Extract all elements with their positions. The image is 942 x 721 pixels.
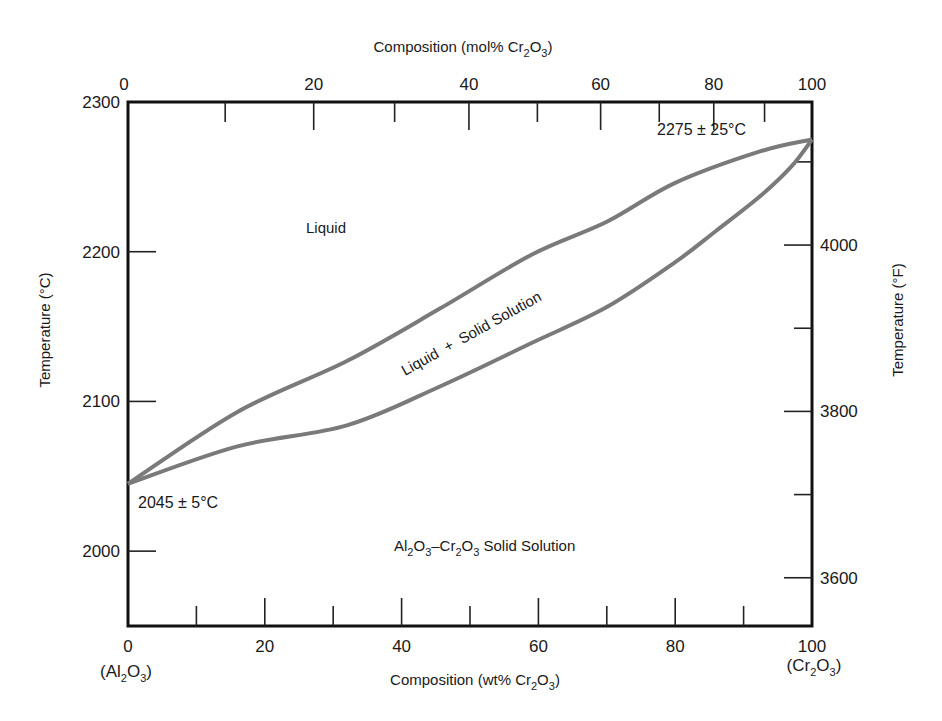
x2-axis-title: Composition (mol% Cr2O3) xyxy=(374,38,553,59)
x2-tick-label: 0 xyxy=(119,75,128,94)
y2-tick-label: 4000 xyxy=(820,236,858,255)
x2-tick-label: 60 xyxy=(591,75,610,94)
liquidus-curve xyxy=(128,139,812,483)
phase-diagram: 020406080100 020406080100 20002100220023… xyxy=(0,0,942,721)
x2-tick-label: 80 xyxy=(704,75,723,94)
x-tick-label: 0 xyxy=(123,637,132,656)
x2-tick-label: 40 xyxy=(459,75,478,94)
x-tick-label: 60 xyxy=(529,637,548,656)
x-tick-label: 100 xyxy=(798,637,826,656)
y-axis-title: Temperature (°C) xyxy=(36,272,53,387)
y-tick-label: 2000 xyxy=(82,542,120,561)
region-label-liquid: Liquid xyxy=(306,219,346,236)
x-tick-label: 40 xyxy=(392,637,411,656)
x-tick-label: 80 xyxy=(666,637,685,656)
y-tick-label: 2100 xyxy=(82,392,120,411)
x-tick-label: 20 xyxy=(255,637,274,656)
endpoint-label-cr2o3: (Cr2O3) xyxy=(787,656,842,678)
solidus-curve xyxy=(128,139,812,483)
y-tick-label: 2200 xyxy=(82,243,120,262)
annotation-al2o3-melting-point: 2045 ± 5°C xyxy=(138,494,218,511)
annotation-cr2o3-melting-point: 2275 ± 25°C xyxy=(657,121,746,138)
y2-axis-ticks: 360038004000 xyxy=(784,162,858,588)
region-label-solid-solution: Al2O3–Cr2O3 Solid Solution xyxy=(394,537,575,558)
y-tick-label: 2300 xyxy=(82,93,120,112)
x2-tick-label: 20 xyxy=(304,75,323,94)
x2-tick-label: 100 xyxy=(798,75,826,94)
x-axis-title: Composition (wt% Cr2O3) xyxy=(390,671,560,692)
region-label-two-phase: Liquid + Solid Solution xyxy=(398,288,544,379)
endpoint-label-al2o3: (Al2O3) xyxy=(100,662,152,684)
y2-tick-label: 3800 xyxy=(820,402,858,421)
y-axis-ticks: 2000210022002300 xyxy=(82,93,156,561)
y2-tick-label: 3600 xyxy=(820,569,858,588)
y2-axis-title: Temperature (°F) xyxy=(889,263,906,377)
